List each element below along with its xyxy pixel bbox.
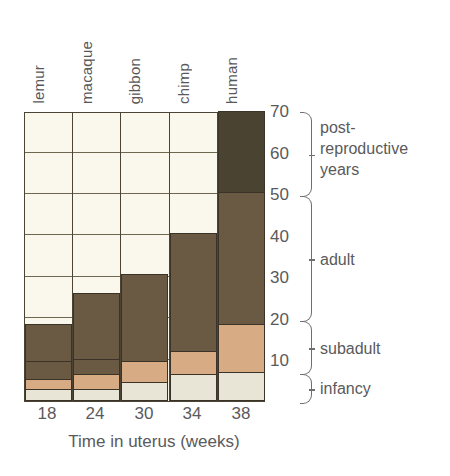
bracket-line-reproductive: reproductive (320, 138, 408, 159)
bar-chimp[interactable] (170, 233, 217, 401)
x-tick-30: 30 (122, 404, 166, 424)
segment-chimp-subadult (170, 351, 217, 374)
y-tick-20: 20 (270, 311, 289, 328)
bracket-line-post: post- (320, 117, 408, 138)
bracket-adult (300, 196, 312, 322)
segment-lemur-subadult-brown (25, 361, 72, 379)
segment-lemur-adult (25, 324, 72, 361)
bar-gibbon[interactable] (121, 274, 168, 401)
bracket-label-adult: adult (320, 249, 355, 270)
y-tick-40: 40 (270, 228, 289, 245)
segment-human-subadult (218, 324, 265, 372)
segment-macaque-subadult-tan (73, 374, 120, 389)
y-tick-30: 30 (270, 269, 289, 286)
segment-chimp-infancy (170, 374, 217, 401)
y-tick-10: 10 (270, 352, 289, 369)
x-tick-38: 38 (219, 404, 263, 424)
bar-human[interactable] (218, 111, 265, 401)
species-label-human: human (223, 57, 240, 104)
segment-gibbon-infancy (121, 382, 168, 401)
y-tick-50: 50 (270, 186, 289, 203)
bracket-infancy (300, 374, 312, 404)
bar-lemur[interactable] (25, 324, 72, 401)
x-tick-18: 18 (25, 404, 69, 424)
segment-macaque-infancy (73, 389, 120, 401)
bracket-post-reproductive (300, 112, 312, 197)
segment-lemur-subadult-tan (25, 379, 72, 389)
segment-gibbon-subadult (121, 361, 168, 382)
y-tick-70: 70 (270, 103, 289, 120)
bracket-label-post-reproductive: post- reproductive years (320, 117, 408, 180)
species-label-macaque: macaque (78, 41, 95, 104)
bracket-line-years: years (320, 159, 408, 180)
bracket-label-subadult: subadult (320, 338, 381, 359)
species-label-lemur: lemur (30, 65, 47, 104)
x-tick-24: 24 (73, 404, 117, 424)
x-axis-label: Time in uterus (weeks) (24, 432, 284, 452)
segment-human-adult (218, 192, 265, 324)
bar-macaque[interactable] (73, 293, 120, 401)
segment-gibbon-adult (121, 274, 168, 361)
segment-macaque-subadult-brown (73, 359, 120, 374)
species-label-chimp: chimp (175, 63, 192, 104)
chart-root: lemur macaque gibbon chimp human (0, 0, 450, 476)
y-tick-60: 60 (270, 145, 289, 162)
segment-human-postreproductive (218, 111, 265, 192)
segment-human-infancy (218, 372, 265, 401)
bracket-subadult (300, 321, 312, 375)
species-label-gibbon: gibbon (126, 58, 143, 104)
segment-macaque-adult (73, 293, 120, 359)
bracket-label-infancy: infancy (320, 378, 371, 399)
segment-chimp-adult (170, 233, 217, 351)
x-tick-34: 34 (170, 404, 214, 424)
plot-area (24, 112, 265, 402)
segment-lemur-infancy (25, 389, 72, 401)
